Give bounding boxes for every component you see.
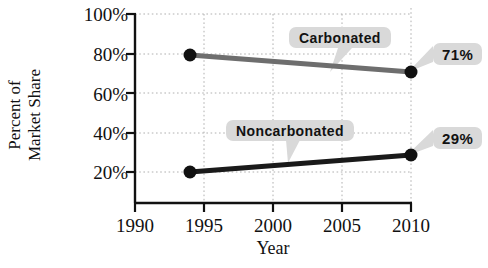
value-label-carbonated: 71% — [433, 43, 482, 65]
x-tick-2005: 2005 — [307, 216, 377, 235]
x-tick-1990: 1990 — [100, 216, 170, 235]
series-label-carbonated: Carbonated — [289, 27, 391, 48]
x-tick-2000: 2000 — [238, 216, 308, 235]
x-axis-title: Year — [133, 238, 413, 259]
x-tick-2010: 2010 — [376, 216, 446, 235]
value-label-noncarbonated: 29% — [433, 127, 482, 149]
chart-figure: Percent of Market Share 100% 80% 60% 40%… — [0, 0, 488, 268]
x-tick-1995: 1995 — [169, 216, 239, 235]
series-label-noncarbonated: Noncarbonated — [226, 120, 354, 141]
